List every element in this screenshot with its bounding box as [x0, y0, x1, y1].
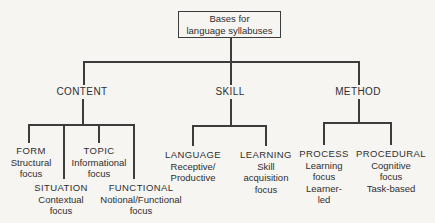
leaf-functional-subline: focus — [100, 205, 181, 217]
leaf-procedural-title: PROCEDURAL — [356, 148, 426, 160]
leaf-situation-subline: focus — [34, 205, 88, 217]
leaf-situation-subline: Contextual — [34, 194, 88, 206]
connector-content-drop — [83, 61, 85, 85]
connector-skill-bar — [192, 125, 266, 127]
connector-topic-drop — [98, 124, 100, 143]
connector-situation-drop — [63, 124, 65, 179]
leaf-topic-subline: Informational — [72, 157, 127, 169]
leaf-learning-subline: focus — [240, 184, 292, 196]
connector-method-stem — [358, 99, 360, 122]
connector-content-stem — [82, 99, 84, 124]
branch-content: CONTENT — [56, 86, 107, 97]
leaf-procedural-subline: Task-based — [356, 183, 426, 195]
connector-functional-drop — [133, 124, 135, 179]
leaf-form-title: FORM — [11, 145, 52, 157]
branch-method: METHOD — [335, 86, 381, 97]
connector-main-bar — [83, 61, 360, 63]
leaf-language-subline: Productive — [165, 172, 221, 184]
connector-procedural-drop — [390, 122, 392, 145]
leaf-procedural-subline: focus — [356, 171, 426, 183]
leaf-topic-title: TOPIC — [72, 145, 127, 157]
leaf-form-subline: Structural — [11, 157, 52, 169]
root-node-line1: Bases for — [179, 13, 280, 25]
leaf-learning-title: LEARNING — [240, 149, 292, 161]
leaf-learning-subline: Skill — [240, 161, 292, 173]
leaf-topic-subline: focus — [72, 168, 127, 180]
leaf-learning: LEARNING Skill acquisition focus — [240, 149, 292, 195]
leaf-form-subline: focus — [11, 168, 52, 180]
connector-language-drop — [192, 125, 194, 146]
leaf-procedural: PROCEDURAL Cognitive focus Task-based — [356, 148, 426, 194]
leaf-form: FORM Structural focus — [11, 145, 52, 180]
connector-skill-drop — [230, 61, 232, 85]
leaf-functional-subline: Notional/Functional — [100, 194, 181, 206]
root-node-line2: language syllabuses — [179, 25, 280, 37]
connector-method-drop — [358, 61, 360, 85]
connector-skill-stem — [230, 99, 232, 125]
leaf-language: LANGUAGE Receptive/ Productive — [165, 149, 221, 184]
syllabus-tree-diagram: Bases for language syllabuses CONTENT SK… — [0, 0, 435, 223]
leaf-functional: FUNCTIONAL Notional/Functional focus — [100, 182, 181, 217]
leaf-learning-subline: acquisition — [240, 172, 292, 184]
leaf-process-subline: led — [299, 194, 348, 206]
leaf-process: PROCESS Learning focus Learner- led — [299, 148, 348, 206]
root-node-box: Bases for language syllabuses — [178, 11, 281, 38]
leaf-process-subline: Learning — [299, 160, 348, 172]
connector-content-bar — [28, 124, 134, 126]
leaf-process-subline: Learner- — [299, 183, 348, 195]
leaf-language-title: LANGUAGE — [165, 149, 221, 161]
connector-method-bar — [323, 122, 391, 124]
leaf-process-title: PROCESS — [299, 148, 348, 160]
connector-form-drop — [28, 124, 30, 143]
leaf-language-subline: Receptive/ — [165, 161, 221, 173]
leaf-procedural-subline: Cognitive — [356, 160, 426, 172]
leaf-process-subline: focus — [299, 171, 348, 183]
branch-skill: SKILL — [215, 86, 244, 97]
leaf-topic: TOPIC Informational focus — [72, 145, 127, 180]
connector-process-drop — [323, 122, 325, 145]
connector-root-stem — [230, 38, 232, 61]
connector-learning-drop — [265, 125, 267, 146]
leaf-situation-title: SITUATION — [34, 182, 88, 194]
leaf-situation: SITUATION Contextual focus — [34, 182, 88, 217]
